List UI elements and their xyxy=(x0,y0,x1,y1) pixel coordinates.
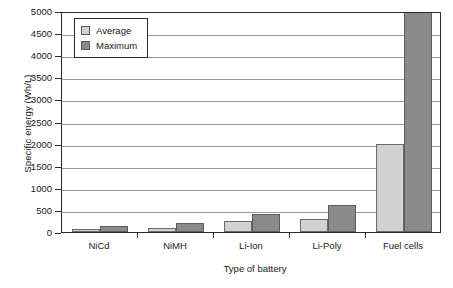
bar-nimh-average xyxy=(148,228,176,232)
x-tick-label: NiCd xyxy=(61,240,137,251)
gridline xyxy=(62,101,440,102)
x-tick-label: NiMH xyxy=(137,240,213,251)
x-tick-label: Li-Ion xyxy=(213,240,289,251)
chart-legend: Average Maximum xyxy=(74,18,148,58)
bar-li-poly-average xyxy=(300,219,328,232)
x-axis-title: Type of battery xyxy=(60,263,450,274)
bar-li-ion-average xyxy=(224,221,252,232)
y-tick-label: 4500 xyxy=(0,29,52,39)
y-tick-label: 1500 xyxy=(0,162,52,172)
gridline xyxy=(62,124,440,125)
legend-label-average: Average xyxy=(96,25,131,36)
bar-li-ion-maximum xyxy=(252,214,280,232)
x-tick-mark xyxy=(213,233,214,238)
plot-area: Average Maximum xyxy=(61,12,441,233)
x-tick-mark xyxy=(137,233,138,238)
x-tick-label: Li-Poly xyxy=(289,240,365,251)
x-tick-mark xyxy=(365,233,366,238)
bar-fuel-cells-maximum xyxy=(404,12,432,232)
legend-swatch-maximum-icon xyxy=(81,41,90,50)
y-tick-label: 0 xyxy=(0,228,52,238)
bar-fuel-cells-average xyxy=(376,144,404,232)
legend-label-maximum: Maximum xyxy=(96,40,137,51)
bar-nimh-maximum xyxy=(176,223,204,232)
y-tick-mark xyxy=(55,233,61,234)
legend-item-average: Average xyxy=(81,23,137,38)
bar-chart-figure: Specific energy (Wh/L) 05001000150020002… xyxy=(0,0,453,288)
y-tick-label: 1000 xyxy=(0,184,52,194)
gridline xyxy=(62,79,440,80)
y-tick-label: 3500 xyxy=(0,73,52,83)
y-tick-label: 500 xyxy=(0,206,52,216)
bar-nicd-maximum xyxy=(100,226,128,232)
y-tick-label: 2500 xyxy=(0,118,52,128)
x-tick-mark xyxy=(289,233,290,238)
bar-nicd-average xyxy=(72,229,100,232)
legend-item-maximum: Maximum xyxy=(81,38,137,53)
y-tick-label: 2000 xyxy=(0,140,52,150)
legend-swatch-average-icon xyxy=(81,26,90,35)
y-tick-label: 3000 xyxy=(0,95,52,105)
x-tick-label: Fuel cells xyxy=(365,240,441,251)
y-tick-label: 4000 xyxy=(0,51,52,61)
y-tick-label: 5000 xyxy=(0,7,52,17)
bar-li-poly-maximum xyxy=(328,205,356,232)
